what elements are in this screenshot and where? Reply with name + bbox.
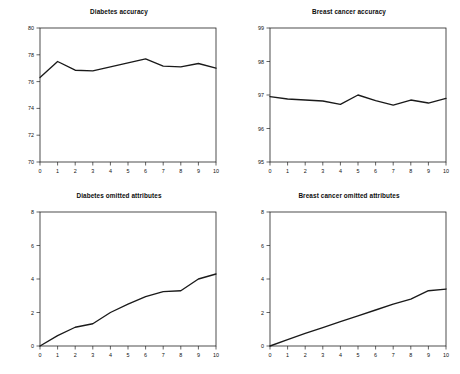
x-tick-label: 7	[392, 168, 395, 174]
x-tick-label: 9	[197, 168, 200, 174]
y-tick-label: 96	[258, 126, 264, 132]
data-series-line	[40, 59, 216, 78]
y-tick-label: 74	[28, 105, 34, 111]
x-tick-label: 4	[109, 168, 112, 174]
y-tick-label: 4	[261, 276, 264, 282]
y-tick-label: 97	[258, 92, 264, 98]
x-tick-label: 0	[269, 352, 272, 358]
y-tick-label: 6	[261, 243, 264, 249]
x-tick-label: 5	[357, 352, 360, 358]
x-tick-label: 1	[56, 352, 59, 358]
x-tick-label: 9	[427, 352, 430, 358]
x-tick-label: 4	[339, 352, 342, 358]
plot-area-breast-cancer-accuracy: 9596979899012345678910	[238, 8, 460, 190]
x-tick-label: 3	[321, 352, 324, 358]
y-tick-label: 8	[31, 209, 34, 215]
x-tick-label: 10	[443, 168, 449, 174]
data-series-line	[40, 274, 216, 346]
x-tick-label: 10	[213, 168, 219, 174]
x-tick-label: 2	[74, 168, 77, 174]
y-tick-label: 8	[261, 209, 264, 215]
chart-panel-breast-cancer-omitted-attributes: Breast cancer omitted attributes02468012…	[238, 192, 460, 374]
plot-area-diabetes-omitted-attributes: 02468012345678910	[8, 192, 230, 374]
x-tick-label: 0	[39, 168, 42, 174]
x-tick-label: 5	[357, 168, 360, 174]
x-tick-label: 9	[427, 168, 430, 174]
y-tick-label: 0	[261, 343, 264, 349]
chart-panel-breast-cancer-accuracy: Breast cancer accuracy959697989901234567…	[238, 8, 460, 190]
x-tick-label: 6	[144, 168, 147, 174]
x-tick-label: 5	[127, 352, 130, 358]
chart-panel-diabetes-accuracy: Diabetes accuracy70727476788001234567891…	[8, 8, 230, 190]
y-tick-label: 6	[31, 243, 34, 249]
x-tick-label: 0	[269, 168, 272, 174]
axes-frame	[40, 28, 216, 162]
x-tick-label: 8	[409, 352, 412, 358]
x-tick-label: 7	[392, 352, 395, 358]
x-tick-label: 4	[339, 168, 342, 174]
x-tick-label: 6	[374, 168, 377, 174]
y-tick-label: 70	[28, 159, 34, 165]
x-tick-label: 3	[91, 168, 94, 174]
chart-panel-diabetes-omitted-attributes: Diabetes omitted attributes0246801234567…	[8, 192, 230, 374]
plot-area-diabetes-accuracy: 707274767880012345678910	[8, 8, 230, 190]
x-tick-label: 7	[162, 352, 165, 358]
y-tick-label: 72	[28, 132, 34, 138]
axes-frame	[270, 212, 446, 346]
y-tick-label: 98	[258, 59, 264, 65]
x-tick-label: 4	[109, 352, 112, 358]
x-tick-label: 2	[304, 168, 307, 174]
y-tick-label: 2	[261, 310, 264, 316]
y-tick-label: 99	[258, 25, 264, 31]
plot-area-breast-cancer-omitted-attributes: 02468012345678910	[238, 192, 460, 374]
y-tick-label: 0	[31, 343, 34, 349]
y-tick-label: 4	[31, 276, 34, 282]
x-tick-label: 8	[179, 168, 182, 174]
x-tick-label: 3	[321, 168, 324, 174]
data-series-line	[270, 289, 446, 346]
x-tick-label: 2	[74, 352, 77, 358]
x-tick-label: 1	[286, 168, 289, 174]
x-tick-label: 5	[127, 168, 130, 174]
x-tick-label: 7	[162, 168, 165, 174]
x-tick-label: 10	[443, 352, 449, 358]
y-tick-label: 80	[28, 25, 34, 31]
x-tick-label: 2	[304, 352, 307, 358]
axes-frame	[40, 212, 216, 346]
x-tick-label: 3	[91, 352, 94, 358]
x-tick-label: 6	[374, 352, 377, 358]
x-tick-label: 10	[213, 352, 219, 358]
x-tick-label: 1	[56, 168, 59, 174]
x-tick-label: 8	[409, 168, 412, 174]
figure-canvas: Diabetes accuracy70727476788001234567891…	[0, 0, 460, 374]
y-tick-label: 76	[28, 79, 34, 85]
y-tick-label: 2	[31, 310, 34, 316]
x-tick-label: 9	[197, 352, 200, 358]
x-tick-label: 8	[179, 352, 182, 358]
y-tick-label: 95	[258, 159, 264, 165]
x-tick-label: 6	[144, 352, 147, 358]
x-tick-label: 1	[286, 352, 289, 358]
y-tick-label: 78	[28, 52, 34, 58]
data-series-line	[270, 95, 446, 105]
x-tick-label: 0	[39, 352, 42, 358]
